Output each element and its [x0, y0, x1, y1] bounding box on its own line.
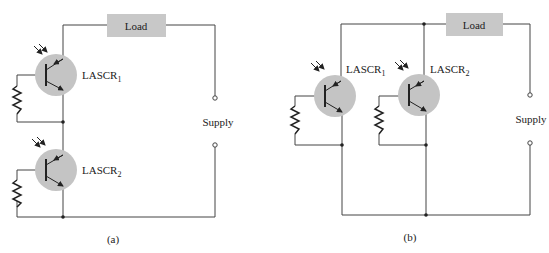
supply-terminal: [528, 141, 532, 145]
junction-dot: [61, 120, 65, 124]
diagram-b-parallel: [295, 24, 530, 215]
device-label: LASCR1: [346, 63, 385, 78]
wire: [342, 112, 530, 215]
resistor-icon: [375, 106, 383, 134]
load-label: Load: [463, 19, 486, 31]
wire: [503, 24, 530, 93]
lascr-2: [32, 137, 77, 191]
circuit-diagrams: Load Supply LASCR1 LASCR2 (a): [0, 0, 549, 253]
device-label: LASCR1: [82, 69, 121, 84]
caption-a: (a): [107, 233, 120, 246]
wire: [63, 25, 107, 58]
caption-b: (b): [404, 231, 417, 244]
supply-terminal: [528, 93, 532, 97]
supply-terminal: [213, 96, 217, 100]
junction-dot: [422, 22, 426, 26]
device-label: LASCR2: [82, 164, 121, 179]
junction-dot: [61, 215, 65, 219]
supply-terminal: [213, 143, 217, 147]
resistor-icon: [13, 86, 21, 114]
wire: [295, 134, 342, 145]
load-label: Load: [125, 20, 148, 32]
junction-dot: [424, 143, 428, 147]
resistor-icon: [291, 106, 299, 134]
wire: [17, 114, 63, 122]
device-label: LASCR2: [430, 63, 469, 78]
lascr-1: [34, 44, 77, 96]
supply-label: Supply: [515, 113, 547, 125]
wire: [166, 25, 215, 96]
wire: [379, 134, 426, 145]
junction-dot: [340, 143, 344, 147]
supply-label: Supply: [202, 116, 234, 128]
junction-dot: [424, 213, 428, 217]
